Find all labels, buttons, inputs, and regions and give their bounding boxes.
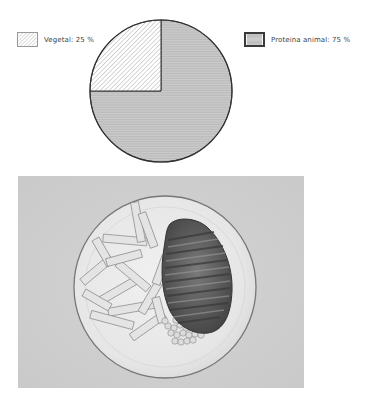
pie-slice-vegetal bbox=[90, 20, 161, 91]
food-plate-photo bbox=[18, 176, 304, 388]
pie-chart bbox=[0, 0, 365, 170]
